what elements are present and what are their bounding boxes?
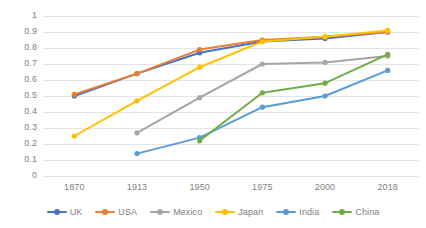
x-tick-label: 2000 [295, 182, 355, 192]
data-point-china [322, 81, 327, 86]
legend-item-mexico[interactable]: Mexico [150, 207, 202, 217]
x-tick-label: 1975 [232, 182, 292, 192]
x-tick-label: 2018 [358, 182, 418, 192]
data-point-mexico [260, 61, 265, 66]
data-point-japan [260, 39, 265, 44]
x-tick-label: 1913 [107, 182, 167, 192]
data-point-india [385, 68, 390, 73]
data-point-india [260, 105, 265, 110]
data-point-mexico [197, 95, 202, 100]
legend-swatch-icon [276, 208, 296, 217]
y-tick-label: 0.4 [24, 106, 37, 116]
x-tick-label: 1950 [170, 182, 230, 192]
legend-item-china[interactable]: China [332, 207, 379, 217]
legend-label: China [355, 207, 379, 217]
data-point-india [134, 151, 139, 156]
legend-swatch-icon [47, 208, 67, 217]
x-tick-label: 1870 [44, 182, 104, 192]
chart-legend: UKUSAMexicoJapanIndiaChina [0, 201, 426, 223]
legend-item-india[interactable]: India [276, 207, 319, 217]
y-tick-label: 0.3 [24, 122, 37, 132]
legend-label: Mexico [173, 207, 202, 217]
data-point-japan [134, 98, 139, 103]
y-tick-label: 0 [32, 170, 37, 180]
y-tick-label: 0.6 [24, 74, 37, 84]
legend-label: USA [118, 207, 137, 217]
legend-swatch-icon [215, 208, 235, 217]
data-point-usa [134, 71, 139, 76]
y-tick-label: 0.8 [24, 42, 37, 52]
data-point-japan [197, 65, 202, 70]
y-tick-label: 0.1 [24, 154, 37, 164]
data-point-india [322, 93, 327, 98]
legend-swatch-icon [95, 208, 115, 217]
data-point-japan [385, 28, 390, 33]
data-point-mexico [322, 60, 327, 65]
legend-label: UK [70, 207, 83, 217]
y-tick-label: 0.5 [24, 90, 37, 100]
gridlines [43, 16, 419, 176]
legend-label: India [299, 207, 319, 217]
legend-item-japan[interactable]: Japan [215, 207, 263, 217]
data-point-mexico [134, 130, 139, 135]
legend-label: Japan [238, 207, 263, 217]
y-tick-label: 1 [32, 10, 37, 20]
data-point-china [260, 90, 265, 95]
y-tick-label: 0.2 [24, 138, 37, 148]
data-point-china [385, 52, 390, 57]
plot-area [0, 0, 426, 228]
legend-swatch-icon [332, 208, 352, 217]
legend-item-uk[interactable]: UK [47, 207, 83, 217]
data-point-usa [197, 47, 202, 52]
data-point-japan [322, 34, 327, 39]
legend-swatch-icon [150, 208, 170, 217]
y-tick-label: 0.7 [24, 58, 37, 68]
series-line-usa [74, 32, 387, 94]
data-point-china [197, 138, 202, 143]
y-tick-label: 0.9 [24, 26, 37, 36]
data-point-usa [72, 92, 77, 97]
line-chart: 10.90.80.70.60.50.40.30.20.10 1870191319… [0, 0, 426, 228]
series-lines [72, 28, 391, 156]
legend-item-usa[interactable]: USA [95, 207, 137, 217]
data-point-japan [72, 133, 77, 138]
